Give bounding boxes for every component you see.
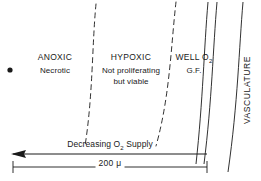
zone-label-well-oxygenated-subtitle: G.F.	[186, 67, 201, 75]
zone-label-hypoxic-subtitle-line1: Not proliferating	[102, 67, 160, 75]
zone-label-vasculature: VASCULATURE	[243, 56, 252, 124]
zone-label-anoxic-title: ANOXIC	[38, 53, 72, 62]
scale-bar-label: 200 μ	[96, 159, 125, 168]
gradient-arrow-label-suffix: Supply	[124, 139, 153, 149]
zone-label-hypoxic-title: HYPOXIC	[111, 53, 151, 62]
necrotic-core-dot	[7, 67, 12, 72]
diagram-linework	[0, 0, 261, 181]
vessel-wall-inner-arc	[196, 2, 208, 164]
well-oxygenated-title-subscript: 2	[209, 58, 213, 64]
anoxic-hypoxic-boundary-arc	[85, 4, 96, 146]
oxygen-gradient-diagram: ANOXIC Necrotic HYPOXIC Not proliferatin…	[0, 0, 261, 181]
zone-label-anoxic-subtitle: Necrotic	[40, 67, 70, 75]
zone-label-hypoxic-subtitle-line2: but viable	[113, 78, 148, 86]
gradient-arrow-head	[11, 150, 26, 158]
gradient-arrow-label-prefix: Decreasing O	[67, 139, 120, 149]
gradient-arrow-label: Decreasing O2 Supply	[67, 140, 153, 151]
well-oxygenated-title-text: WELL O	[175, 52, 209, 62]
zone-label-well-oxygenated-title: WELL O2	[175, 53, 212, 64]
